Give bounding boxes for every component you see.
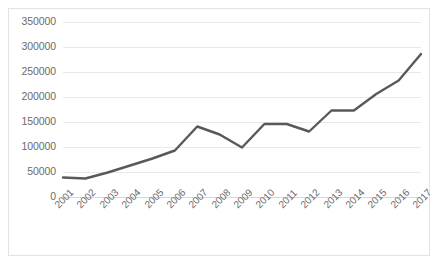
line-series-layer	[0, 0, 440, 266]
line-series-1	[63, 54, 421, 179]
chart-canvas: 0500001000001500002000002500003000003500…	[0, 0, 440, 266]
